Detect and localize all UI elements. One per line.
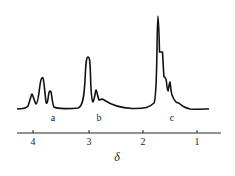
peak-label-c: c xyxy=(170,113,174,123)
spectrum-trace xyxy=(17,16,209,109)
peak-label-a: a xyxy=(51,113,55,123)
nmr-spectrum-chart: a b c 4 3 2 1 δ xyxy=(0,0,235,176)
x-tick-label-2: 2 xyxy=(141,137,146,147)
x-tick-label-4: 4 xyxy=(31,137,36,147)
peak-label-b: b xyxy=(97,113,102,123)
x-tick-label-3: 3 xyxy=(87,137,92,147)
x-tick-label-1: 1 xyxy=(195,137,200,147)
x-axis-label: δ xyxy=(114,150,120,165)
